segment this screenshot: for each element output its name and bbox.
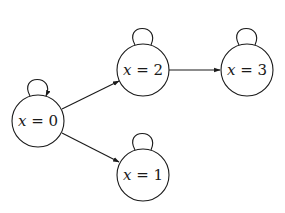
edge-x0-to-x1 [62,133,119,162]
state-diagram: x = 0 x = 2 x = 3 x = 1 [0,0,285,213]
node-x3: x = 3 [221,44,273,96]
edge-x0-to-x2 [62,81,119,109]
node-label: x = 2 [123,61,163,79]
self-loop-x1 [133,134,153,151]
self-loop-x3 [237,29,257,46]
node-x2: x = 2 [117,44,169,96]
node-x1: x = 1 [117,149,169,201]
self-loop-x0 [28,80,48,97]
node-label: x = 1 [123,166,163,184]
node-label: x = 0 [18,112,58,130]
node-x0: x = 0 [12,95,64,147]
node-label: x = 3 [227,61,267,79]
self-loop-x2 [133,29,153,46]
